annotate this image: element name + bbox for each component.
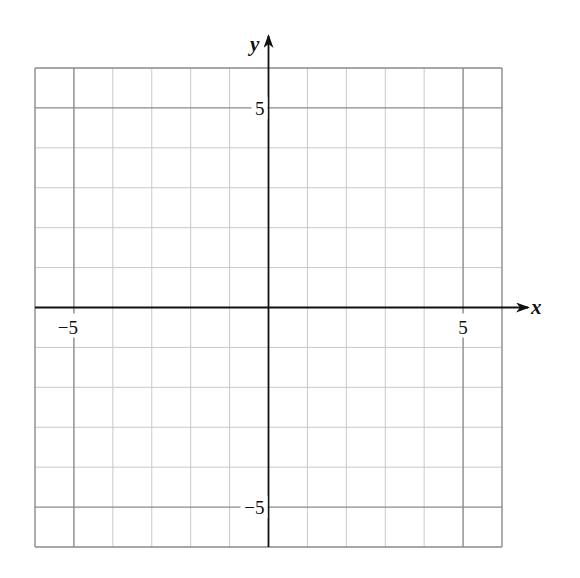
y-tick-label: −5 — [244, 497, 264, 518]
x-tick-label: 5 — [458, 317, 468, 338]
x-axis-label: x — [530, 295, 542, 319]
x-tick-label: −5 — [58, 317, 78, 338]
axes — [35, 36, 528, 547]
y-axis-label: y — [247, 32, 260, 56]
y-tick-label: 5 — [255, 98, 265, 119]
coordinate-plane: −555−5 x y — [0, 0, 580, 578]
